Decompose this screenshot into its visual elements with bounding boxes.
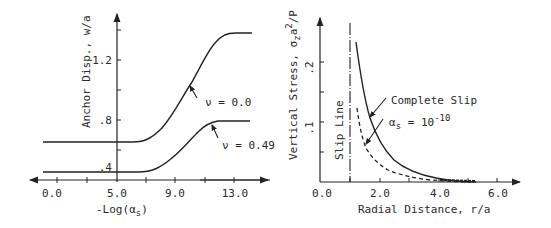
- right-y-tick-label: .2: [303, 61, 316, 74]
- left-y-axis-title: Anchor Disp., w/a: [80, 15, 93, 128]
- curve-nu-0: [43, 33, 252, 142]
- left-x-tick-label: 0.0: [42, 187, 62, 200]
- figure: 0.0 5.0 9.0 13.0 1.2 .8 .4 Anchor Disp.,…: [0, 0, 551, 228]
- curve-nu-049: [43, 121, 250, 172]
- right-y-tick-label: .1: [303, 121, 316, 134]
- annot-complete-slip: Complete Slip: [391, 94, 477, 107]
- slip-line-label: Slip Line: [333, 100, 346, 160]
- right-chart: 0.0 2.0 4.0 6.0 .2 .1 Vertical Stress, σ…: [284, 10, 520, 216]
- right-x-tick-label: 4.0: [430, 187, 450, 200]
- right-x-axis-title: Radial Distance, r/a: [358, 203, 490, 216]
- annot-nu-049: ν = 0.49: [222, 139, 275, 152]
- left-chart: 0.0 5.0 9.0 13.0 1.2 .8 .4 Anchor Disp.,…: [30, 14, 275, 218]
- right-x-tick-label: 0.0: [312, 187, 332, 200]
- left-x-tick-label: 13.0: [222, 187, 249, 200]
- left-x-axis-title: -Log(αs): [96, 203, 148, 218]
- annot-arrow-complete-slip: [370, 98, 386, 117]
- right-x-tick-label: 2.0: [370, 187, 390, 200]
- annot-arrow-alpha: [366, 119, 383, 144]
- annot-arrow-nu-0: [190, 86, 197, 98]
- left-y-tick-label: 1.2: [92, 54, 112, 67]
- left-x-tick-label: 5.0: [107, 187, 127, 200]
- annot-nu-0: ν = 0.0: [205, 96, 251, 109]
- annot-arrow-nu-049: [212, 125, 218, 138]
- right-y-axis-title: Vertical Stress, σza2/P: [284, 10, 302, 160]
- left-x-tick-label: 9.0: [165, 187, 185, 200]
- right-x-tick-label: 6.0: [488, 187, 508, 200]
- left-y-tick-label: .8: [99, 114, 112, 127]
- curve-tail: [440, 180, 475, 181]
- annot-alpha-1e-10: αs = 10-10: [389, 113, 450, 131]
